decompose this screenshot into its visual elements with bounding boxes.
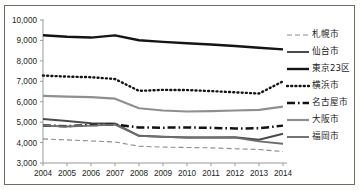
x-tick-label: 2004 bbox=[34, 169, 53, 178]
data-series-group bbox=[43, 35, 283, 151]
legend-item[interactable]: 仙台市 bbox=[286, 43, 358, 60]
y-tick-label: 6,000 bbox=[17, 98, 38, 107]
x-tick-label: 2011 bbox=[202, 169, 220, 178]
legend-label: 福岡市 bbox=[312, 132, 339, 141]
y-tick-label: 5,000 bbox=[17, 118, 38, 127]
x-tick-label: 2010 bbox=[178, 169, 197, 178]
series-line bbox=[43, 76, 283, 94]
legend-swatch-icon bbox=[286, 29, 310, 41]
legend-label: 東京23区 bbox=[312, 64, 350, 73]
series-line bbox=[43, 35, 283, 49]
chart-legend: 札幌市仙台市東京23区横浜市名古屋市大阪市福岡市 bbox=[286, 26, 358, 158]
legend-item[interactable]: 福岡市 bbox=[286, 128, 358, 145]
legend-label: 大阪市 bbox=[312, 115, 339, 124]
legend-swatch-icon bbox=[286, 46, 310, 58]
legend-label: 横浜市 bbox=[312, 81, 339, 90]
y-tick-label: 10,000 bbox=[12, 16, 37, 25]
legend-item[interactable]: 札幌市 bbox=[286, 26, 358, 43]
legend-label: 仙台市 bbox=[312, 47, 339, 56]
legend-item[interactable]: 横浜市 bbox=[286, 77, 358, 94]
x-tick-label: 2005 bbox=[58, 169, 77, 178]
y-axis-tick-labels: 10,0009,0008,0007,0006,0005,0004,0003,00… bbox=[12, 16, 37, 168]
legend-label: 名古屋市 bbox=[312, 98, 348, 107]
legend-item[interactable]: 大阪市 bbox=[286, 111, 358, 128]
x-axis-tick-labels: 2004200520062007200820092010201120122013… bbox=[34, 169, 293, 178]
legend-swatch-icon bbox=[286, 80, 310, 92]
legend-swatch-icon bbox=[286, 97, 310, 109]
x-tick-label: 2006 bbox=[82, 169, 101, 178]
y-tick-label: 8,000 bbox=[17, 57, 38, 66]
x-tick-label: 2007 bbox=[106, 169, 125, 178]
y-tick-label: 7,000 bbox=[17, 77, 38, 86]
y-tick-label: 3,000 bbox=[17, 159, 38, 168]
x-tick-label: 2012 bbox=[226, 169, 245, 178]
series-line bbox=[43, 96, 283, 112]
legend-label: 札幌市 bbox=[312, 30, 339, 39]
legend-item[interactable]: 東京23区 bbox=[286, 60, 358, 77]
x-tick-label: 2013 bbox=[250, 169, 269, 178]
x-tick-label: 2014 bbox=[274, 169, 293, 178]
legend-swatch-icon bbox=[286, 131, 310, 143]
x-tick-label: 2008 bbox=[130, 169, 149, 178]
y-tick-label: 9,000 bbox=[17, 36, 38, 45]
legend-item[interactable]: 名古屋市 bbox=[286, 94, 358, 111]
legend-swatch-icon bbox=[286, 63, 310, 75]
legend-swatch-icon bbox=[286, 114, 310, 126]
y-tick-label: 4,000 bbox=[17, 139, 38, 148]
series-line bbox=[43, 139, 283, 152]
x-tick-label: 2009 bbox=[154, 169, 173, 178]
chart-figure: 10,0009,0008,0007,0006,0005,0004,0003,00… bbox=[0, 0, 360, 190]
